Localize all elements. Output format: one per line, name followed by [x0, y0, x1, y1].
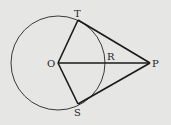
label-T: T — [74, 8, 81, 19]
label-R: R — [107, 51, 115, 62]
label-S: S — [74, 107, 81, 118]
segment-OS — [58, 63, 78, 104]
label-O: O — [47, 58, 55, 69]
geometry-diagram: T O R P S — [0, 0, 171, 125]
segment-OT — [58, 20, 78, 63]
label-P: P — [152, 58, 159, 69]
tangent-SP — [78, 63, 150, 104]
